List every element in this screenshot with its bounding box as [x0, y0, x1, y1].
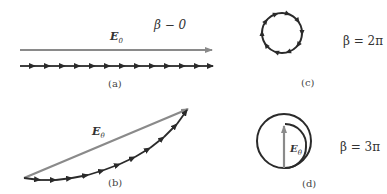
panel-a	[20, 50, 213, 66]
vector-subscript: 0	[118, 37, 122, 45]
beta-label-c: β = 2π	[343, 34, 383, 48]
panel-b	[24, 109, 188, 180]
vector-symbol: E	[290, 143, 298, 154]
phasor-diagram	[0, 0, 387, 194]
beta-label-a: β − 0	[154, 18, 186, 32]
label-etheta-b: Eθ	[92, 125, 105, 140]
caption-b: (b)	[108, 177, 122, 188]
resultant-vector-etheta-b	[24, 109, 188, 178]
vector-subscript: θ	[100, 132, 104, 140]
panel-c	[260, 11, 305, 56]
label-etheta-d: Eθ	[290, 143, 302, 157]
beta-label-d: β = 3π	[340, 140, 380, 154]
caption-c: (c)	[301, 77, 314, 88]
circle-arrowheads-c	[260, 11, 305, 56]
label-e0: E0	[110, 30, 123, 45]
caption-d: (d)	[302, 178, 316, 189]
panel-d	[257, 114, 311, 168]
caption-a: (a)	[108, 78, 122, 89]
vector-subscript: θ	[298, 149, 302, 157]
